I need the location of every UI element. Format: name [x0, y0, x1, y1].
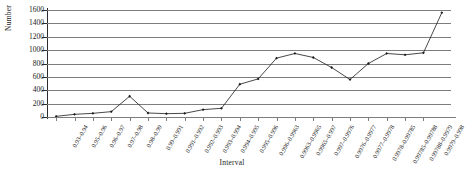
x-tick-label: 0.93–0.94	[72, 124, 90, 149]
y-tick-mark	[42, 104, 47, 105]
x-tick-mark	[350, 117, 351, 121]
x-tick-mark	[240, 117, 241, 121]
x-tick-mark	[75, 117, 76, 121]
x-tick-mark	[368, 117, 369, 121]
x-tick-mark	[203, 117, 204, 121]
x-tick-mark	[185, 117, 186, 121]
x-tick-label: 0.995–0.996	[258, 124, 279, 154]
x-tick-mark	[423, 117, 424, 121]
x-tick-mark	[405, 117, 406, 121]
y-tick-mark	[42, 10, 47, 11]
y-tick-mark	[42, 23, 47, 24]
x-tick-label: 0.99–0.991	[165, 124, 184, 151]
x-tick-mark	[387, 117, 388, 121]
x-tick-mark	[130, 117, 131, 121]
x-tick-mark	[258, 117, 259, 121]
y-tick-mark	[42, 50, 47, 51]
y-tick-mark	[42, 90, 47, 91]
x-tick-mark	[93, 117, 94, 121]
x-tick-mark	[332, 117, 333, 121]
x-tick-mark	[221, 117, 222, 121]
y-tick-mark	[42, 37, 47, 38]
x-tick-mark	[277, 117, 278, 121]
x-tick-label: 0.997–0.9976	[333, 124, 356, 157]
x-tick-mark	[148, 117, 149, 121]
x-tick-mark	[111, 117, 112, 121]
x-tick-mark	[56, 117, 57, 121]
x-tick-mark	[295, 117, 296, 121]
x-tick-label: 0.98–0.99	[145, 124, 163, 149]
x-tick-label: 0.996–0.9963	[278, 124, 301, 157]
x-tick-mark	[313, 117, 314, 121]
x-tick-label: 0.96–0.97	[108, 124, 126, 149]
x-tick-label: 0.95–0.96	[90, 124, 108, 149]
x-axis-title: Interval	[0, 158, 464, 167]
y-tick-mark	[42, 77, 47, 78]
y-tick-mark	[42, 64, 47, 65]
x-tick-label: 0.97–0.98	[127, 124, 145, 149]
y-tick-mark	[42, 117, 47, 118]
x-tick-mark	[166, 117, 167, 121]
